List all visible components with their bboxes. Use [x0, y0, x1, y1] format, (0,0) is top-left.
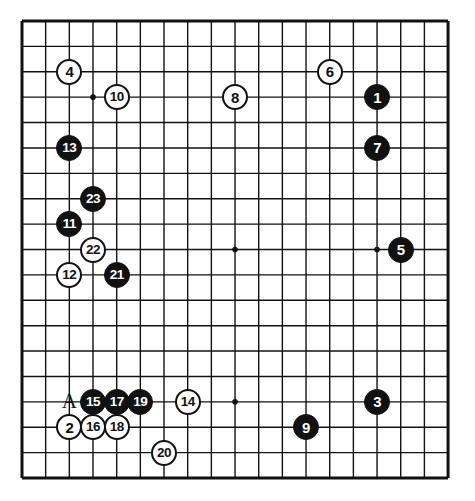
- go-stone-white-22[interactable]: 22: [80, 237, 106, 263]
- go-stone-black-5[interactable]: 5: [388, 237, 414, 263]
- star-point: [374, 247, 380, 253]
- stone-label: 17: [110, 395, 124, 409]
- stone-label: 12: [62, 268, 76, 282]
- stone-label: 9: [302, 419, 310, 434]
- stone-label: 16: [86, 420, 100, 434]
- go-stone-white-10[interactable]: 10: [104, 84, 130, 110]
- go-stone-black-15[interactable]: 15: [80, 389, 106, 415]
- go-stone-white-14[interactable]: 14: [175, 389, 201, 415]
- go-stone-black-7[interactable]: 7: [364, 135, 390, 161]
- stone-label: 20: [157, 445, 171, 459]
- stone-label: 22: [86, 242, 100, 256]
- stone-label: 5: [397, 242, 405, 257]
- go-stone-white-6[interactable]: 6: [317, 59, 343, 85]
- go-stone-black-17[interactable]: 17: [104, 389, 130, 415]
- board-marker-A: A: [56, 389, 82, 415]
- star-point: [90, 94, 96, 100]
- stone-label: 7: [373, 140, 381, 155]
- star-point: [232, 247, 238, 253]
- go-stone-white-8[interactable]: 8: [222, 84, 248, 110]
- stone-label: 1: [373, 89, 381, 104]
- stone-label: 23: [86, 191, 100, 205]
- go-stone-white-4[interactable]: 4: [56, 59, 82, 85]
- stone-label: 11: [63, 217, 76, 231]
- go-stone-black-21[interactable]: 21: [104, 262, 130, 288]
- stone-label: 14: [181, 395, 195, 409]
- stone-label: 8: [231, 89, 239, 104]
- stone-label: 10: [110, 90, 124, 104]
- stone-label: 18: [110, 420, 124, 434]
- stone-label: 4: [65, 64, 73, 79]
- stone-label: 15: [86, 395, 100, 409]
- go-stone-black-19[interactable]: 19: [127, 389, 153, 415]
- stone-label: 3: [373, 394, 381, 409]
- stone-label: 19: [133, 395, 147, 409]
- go-stone-black-3[interactable]: 3: [364, 389, 390, 415]
- go-stone-white-20[interactable]: 20: [151, 440, 177, 466]
- go-diagram: 1234567891011121314151617181920212223A: [0, 0, 475, 501]
- go-stone-white-18[interactable]: 18: [104, 414, 130, 440]
- star-point: [232, 399, 238, 405]
- go-stone-black-23[interactable]: 23: [80, 186, 106, 212]
- stone-label: 21: [110, 268, 124, 282]
- stone-label: 6: [326, 64, 334, 79]
- stone-label: 2: [65, 419, 73, 434]
- stone-label: 13: [62, 141, 76, 155]
